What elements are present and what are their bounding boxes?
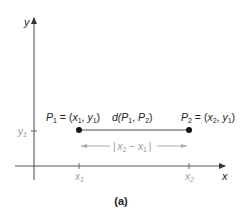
p1-label: P1 = (x1, y1) <box>46 111 100 124</box>
x-axis-label: x <box>221 170 228 182</box>
distance-diagram: y x y1 x1 x2 P1 = (x1, y1) d(P1, P2) P2 … <box>0 0 243 214</box>
y-axis-label: y <box>23 16 31 28</box>
p2-label: P2 = (x2, y1) <box>181 111 235 124</box>
y1-tick-label: y1 <box>17 126 27 138</box>
distance-label: d(P1, P2) <box>112 111 153 124</box>
x2-tick-label: x2 <box>184 171 194 183</box>
point-p2 <box>186 127 192 133</box>
horizontal-distance-label: |x2 − x1| <box>113 141 151 153</box>
point-p1 <box>76 127 82 133</box>
figure-caption: (a) <box>114 195 128 207</box>
x1-tick-label: x1 <box>74 171 84 183</box>
